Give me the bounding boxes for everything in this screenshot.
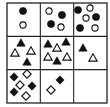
outline-triangle-icon	[11, 49, 19, 56]
filled-triangle-icon	[79, 44, 87, 51]
outline-circle-icon	[58, 24, 64, 30]
puzzle-cell-r3c1	[10, 70, 36, 100]
outline-circle-icon	[87, 5, 93, 11]
filled-diamond-icon	[28, 82, 36, 90]
filled-circle-icon	[92, 13, 99, 20]
outline-triangle-icon	[53, 44, 61, 51]
filled-circle-icon	[19, 7, 26, 14]
puzzle-cell-r1c2	[46, 8, 66, 30]
filled-circle-icon	[58, 11, 65, 18]
puzzle-cell-r2c1	[11, 39, 35, 65]
filled-triangle-icon	[17, 39, 25, 46]
outline-circle-icon	[20, 22, 26, 28]
filled-triangle-icon	[23, 58, 31, 65]
missing-answer-slot[interactable]	[75, 71, 106, 102]
puzzle-cells	[10, 5, 106, 102]
outline-diamond-icon	[47, 86, 55, 94]
outline-triangle-icon	[63, 53, 71, 60]
puzzle-cell-r3c3-missing[interactable]	[75, 71, 106, 102]
outline-circle-icon	[46, 8, 52, 14]
puzzle-cell-r2c2	[44, 38, 71, 64]
filled-diamond-icon	[56, 76, 64, 84]
outline-triangle-icon	[89, 54, 97, 61]
outline-diamond-icon	[23, 70, 31, 78]
outline-diamond-icon	[16, 81, 24, 89]
outline-diamond-icon	[22, 92, 30, 100]
outline-triangle-icon	[27, 47, 35, 54]
puzzle-cell-r2c3	[79, 44, 97, 61]
filled-circle-icon	[76, 24, 83, 31]
puzzle-cell-r1c3	[74, 5, 99, 32]
filled-circle-icon	[74, 6, 81, 13]
filled-triangle-icon	[53, 57, 61, 64]
matrix-puzzle	[0, 0, 110, 107]
filled-diamond-icon	[10, 88, 18, 96]
filled-triangle-icon	[62, 38, 70, 45]
puzzle-cell-r1c1	[19, 7, 26, 28]
outline-triangle-icon	[44, 53, 52, 60]
puzzle-cell-r3c2	[47, 76, 64, 94]
filled-diamond-icon	[10, 73, 18, 81]
outline-circle-icon	[83, 15, 89, 21]
filled-triangle-icon	[44, 40, 52, 47]
filled-circle-icon	[47, 20, 54, 27]
outline-circle-icon	[92, 25, 98, 31]
